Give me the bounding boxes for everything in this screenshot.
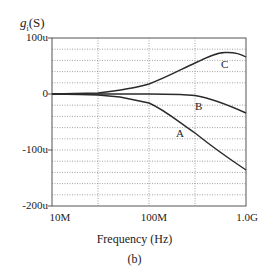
curve-label-B: B: [195, 100, 202, 112]
ytick-100u: 100u: [4, 31, 48, 43]
figure-caption: (b): [0, 252, 269, 267]
x-axis-label: Frequency (Hz): [0, 232, 269, 247]
ytick-minus-100u: -100u: [4, 143, 48, 155]
curve-label-A: A: [176, 127, 184, 139]
ytick-minus-200u: -200u: [4, 199, 48, 211]
ytick-0: 0: [4, 87, 48, 99]
xtick-1G: 1.0G: [227, 211, 267, 223]
xtick-100M: 100M: [134, 211, 174, 223]
axis-ticks: [48, 38, 52, 206]
curve-label-C: C: [221, 58, 228, 70]
xtick-10M: 10M: [40, 211, 80, 223]
